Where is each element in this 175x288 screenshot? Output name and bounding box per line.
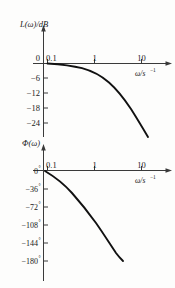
- phase-y-tick-label-1: −36 °: [25, 183, 40, 194]
- magnitude-x-tick-label-0: 0.1: [46, 53, 57, 63]
- phase-y-tick-value-2: −72: [25, 203, 38, 212]
- bode-plot-svg: L(ω)/dB ω/s −1 0 0.1 1 10 −6 −12 −18 −24: [0, 0, 175, 288]
- phase-y-tick-value-4: −144: [21, 239, 38, 248]
- phase-x-tick-label-1: 1: [92, 160, 96, 170]
- magnitude-x-axis-title: ω/s −1: [135, 67, 156, 78]
- phase-x-axis-title: ω/s −1: [135, 174, 156, 185]
- phase-x-tick-label-0: 0.1: [46, 160, 57, 170]
- phase-y-tick-label-0: 0 °: [34, 165, 41, 176]
- magnitude-origin-label: 0: [36, 53, 40, 63]
- magnitude-y-tick-label-1: −6: [31, 73, 40, 83]
- phase-response-curve: [45, 171, 123, 261]
- phase-y-tick-value-0: 0: [34, 167, 38, 176]
- phase-y-axis-title: Φ(ω): [22, 138, 40, 148]
- phase-y-tick-label-2: −72 °: [25, 201, 40, 212]
- phase-x-tick-label-2: 10: [137, 160, 146, 170]
- phase-y-tick-label-5: −180 °: [21, 255, 40, 266]
- phase-y-tick-degree-5: °: [39, 255, 41, 261]
- phase-y-tick-degree-0: °: [39, 165, 41, 171]
- bode-plot-figure: L(ω)/dB ω/s −1 0 0.1 1 10 −6 −12 −18 −24: [0, 0, 175, 288]
- phase-x-axis-title-exponent: −1: [150, 174, 156, 180]
- magnitude-x-tick-label-1: 1: [92, 53, 96, 63]
- phase-y-tick-degree-1: °: [39, 183, 41, 189]
- phase-y-axis-arrow-icon: [41, 144, 46, 151]
- phase-y-tick-label-4: −144 °: [21, 237, 40, 248]
- magnitude-y-tick-label-4: −24: [27, 118, 41, 128]
- magnitude-x-axis-arrow-icon: [166, 61, 173, 66]
- phase-y-tick-degree-4: °: [39, 237, 41, 243]
- phase-y-tick-value-3: −108: [21, 221, 38, 230]
- magnitude-x-axis-title-exponent: −1: [150, 67, 156, 73]
- magnitude-x-axis-title-base: ω/s: [135, 69, 145, 78]
- phase-plot-group: Φ(ω) ω/s −1 0.1 1 10 0 ° −36 ° −72 °: [21, 138, 172, 281]
- magnitude-y-axis-title: L(ω)/dB: [19, 19, 48, 29]
- magnitude-response-curve: [48, 64, 149, 138]
- phase-x-axis-title-base: ω/s: [135, 176, 145, 185]
- magnitude-x-tick-label-2: 10: [137, 53, 146, 63]
- magnitude-plot-group: L(ω)/dB ω/s −1 0 0.1 1 10 −6 −12 −18 −24: [19, 19, 172, 137]
- magnitude-y-tick-label-3: −18: [27, 103, 40, 113]
- phase-y-tick-value-5: −180: [21, 257, 38, 266]
- phase-y-tick-degree-3: °: [39, 219, 41, 225]
- magnitude-y-tick-label-2: −12: [27, 88, 40, 98]
- phase-y-tick-degree-2: °: [39, 201, 41, 207]
- phase-x-axis-arrow-icon: [166, 168, 173, 173]
- phase-y-tick-label-3: −108 °: [21, 219, 40, 230]
- phase-y-tick-value-1: −36: [25, 185, 38, 194]
